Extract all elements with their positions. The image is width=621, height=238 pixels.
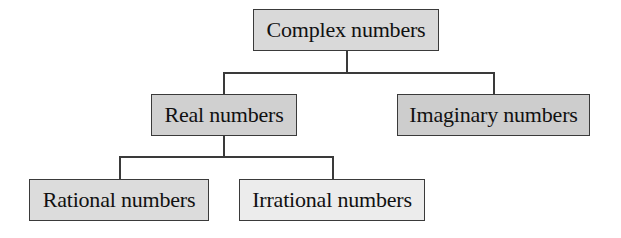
connector-to-real <box>223 72 225 94</box>
node-label: Imaginary numbers <box>409 102 577 128</box>
node-label: Rational numbers <box>43 187 196 213</box>
node-imaginary-numbers: Imaginary numbers <box>397 94 590 136</box>
connector-real-down <box>223 136 225 158</box>
node-irrational-numbers: Irrational numbers <box>239 179 425 221</box>
node-complex-numbers: Complex numbers <box>253 9 439 51</box>
node-label: Complex numbers <box>267 17 426 43</box>
node-rational-numbers: Rational numbers <box>29 179 209 221</box>
connector-level2-bar <box>119 156 334 158</box>
connector-level1-bar <box>223 72 495 74</box>
node-label: Real numbers <box>164 102 283 128</box>
number-tree-diagram: Complex numbers Real numbers Imaginary n… <box>0 0 621 238</box>
connector-to-imaginary <box>493 72 495 94</box>
node-real-numbers: Real numbers <box>151 94 297 136</box>
connector-to-irrational <box>332 156 334 179</box>
connector-to-rational <box>119 156 121 179</box>
connector-complex-down <box>346 51 348 74</box>
node-label: Irrational numbers <box>252 187 412 213</box>
